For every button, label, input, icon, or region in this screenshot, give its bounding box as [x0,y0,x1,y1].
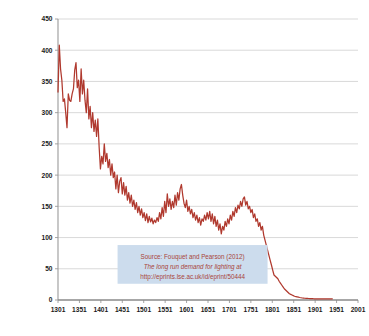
svg-text:1901: 1901 [308,306,323,313]
price-of-light-chart: 050100150200250300350400450 130113511401… [0,0,369,336]
svg-text:1601: 1601 [179,306,194,313]
svg-text:200: 200 [41,172,52,179]
svg-text:1501: 1501 [136,306,151,313]
svg-text:1701: 1701 [222,306,237,313]
svg-text:150: 150 [41,203,52,210]
svg-text:1451: 1451 [115,306,130,313]
svg-text:1301: 1301 [51,306,66,313]
svg-text:50: 50 [45,265,53,272]
source-line-3: http://eprints.lse.ac.uk/id/eprint/50444 [140,273,245,281]
svg-text:450: 450 [41,15,52,22]
svg-text:2001: 2001 [351,306,366,313]
svg-text:400: 400 [41,47,52,54]
svg-text:300: 300 [41,109,52,116]
source-annotation-box: Source: Fouquet and Pearson (2012) The l… [118,245,268,284]
svg-text:1551: 1551 [158,306,173,313]
svg-text:1801: 1801 [265,306,280,313]
svg-text:0: 0 [49,296,53,303]
source-line-2: The long run demand for lighting at [144,263,242,271]
svg-text:1401: 1401 [94,306,109,313]
svg-text:1951: 1951 [329,306,344,313]
svg-text:250: 250 [41,140,52,147]
source-line-1: Source: Fouquet and Pearson (2012) [141,253,245,261]
svg-text:1751: 1751 [244,306,259,313]
svg-text:1351: 1351 [72,306,87,313]
svg-text:1851: 1851 [286,306,301,313]
svg-text:1651: 1651 [201,306,216,313]
svg-text:350: 350 [41,78,52,85]
svg-text:100: 100 [41,234,52,241]
